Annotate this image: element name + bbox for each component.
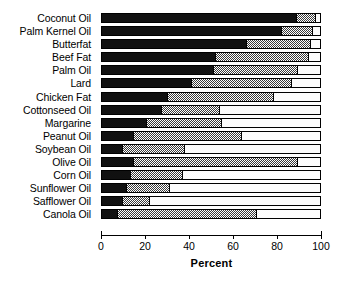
category-label: Chicken Fat bbox=[0, 91, 96, 104]
category-label: Margarine bbox=[0, 117, 96, 130]
bar-segment-monounsaturated bbox=[167, 93, 274, 101]
category-label: Corn Oil bbox=[0, 169, 96, 182]
bar-segment-polyunsaturated bbox=[170, 184, 320, 192]
bar-segment-saturated bbox=[102, 197, 122, 205]
stacked-bar bbox=[101, 52, 321, 62]
bar-row bbox=[101, 156, 321, 169]
bar-segment-saturated bbox=[102, 106, 161, 114]
stacked-bar bbox=[101, 209, 321, 219]
x-tick bbox=[277, 235, 278, 239]
stacked-bar bbox=[101, 144, 321, 154]
bar-segment-polyunsaturated bbox=[220, 106, 320, 114]
category-label: Palm Kernel Oil bbox=[0, 25, 96, 38]
bar-segment-saturated bbox=[102, 66, 213, 74]
bar-segment-monounsaturated bbox=[130, 171, 182, 179]
bar-segment-monounsaturated bbox=[213, 66, 298, 74]
stacked-bar bbox=[101, 78, 321, 88]
bar-segment-polyunsaturated bbox=[185, 145, 320, 153]
bar-segment-monounsaturated bbox=[122, 145, 185, 153]
x-tick bbox=[101, 235, 102, 239]
category-label: Coconut Oil bbox=[0, 12, 96, 25]
bar-segment-saturated bbox=[102, 158, 133, 166]
bar-row bbox=[101, 51, 321, 64]
bar-segment-monounsaturated bbox=[215, 53, 309, 61]
bar-row bbox=[101, 169, 321, 182]
stacked-bar bbox=[101, 92, 321, 102]
x-tick bbox=[233, 235, 234, 239]
stacked-bar bbox=[101, 183, 321, 193]
x-tick bbox=[145, 235, 146, 239]
bar-segment-polyunsaturated bbox=[311, 40, 320, 48]
bar-segment-saturated bbox=[102, 79, 191, 87]
bar-row bbox=[101, 38, 321, 51]
plot-area bbox=[101, 12, 321, 235]
bar-segment-saturated bbox=[102, 145, 122, 153]
bar-segment-polyunsaturated bbox=[257, 210, 320, 218]
bar-row bbox=[101, 12, 321, 25]
bar-segment-polyunsaturated bbox=[309, 53, 320, 61]
bar-segment-saturated bbox=[102, 210, 117, 218]
bar-segment-saturated bbox=[102, 184, 126, 192]
bar-row bbox=[101, 143, 321, 156]
stacked-bar bbox=[101, 157, 321, 167]
bar-segment-monounsaturated bbox=[117, 210, 257, 218]
bar-segment-monounsaturated bbox=[281, 27, 314, 35]
bar-stack-container bbox=[101, 12, 321, 235]
bar-segment-polyunsaturated bbox=[292, 79, 320, 87]
x-tick-label: 20 bbox=[130, 240, 160, 252]
bar-segment-polyunsaturated bbox=[150, 197, 320, 205]
bar-row bbox=[101, 130, 321, 143]
stacked-bar bbox=[101, 131, 321, 141]
x-tick-label: 80 bbox=[262, 240, 292, 252]
stacked-bar bbox=[101, 118, 321, 128]
bar-segment-monounsaturated bbox=[133, 132, 242, 140]
bar-row bbox=[101, 91, 321, 104]
bar-segment-saturated bbox=[102, 27, 281, 35]
bar-segment-saturated bbox=[102, 119, 146, 127]
stacked-bar bbox=[101, 105, 321, 115]
bar-row bbox=[101, 77, 321, 90]
category-label: Cottonseed Oil bbox=[0, 104, 96, 117]
bar-segment-saturated bbox=[102, 132, 133, 140]
bar-segment-monounsaturated bbox=[246, 40, 311, 48]
bar-segment-monounsaturated bbox=[191, 79, 291, 87]
bar-segment-saturated bbox=[102, 14, 296, 22]
bar-row bbox=[101, 117, 321, 130]
bar-segment-polyunsaturated bbox=[222, 119, 320, 127]
bar-row bbox=[101, 195, 321, 208]
bar-row bbox=[101, 208, 321, 221]
x-tick bbox=[189, 235, 190, 239]
category-label: Olive Oil bbox=[0, 156, 96, 169]
x-axis-title: Percent bbox=[101, 257, 322, 269]
bar-segment-polyunsaturated bbox=[313, 27, 320, 35]
bar-row bbox=[101, 25, 321, 38]
bar-segment-saturated bbox=[102, 93, 167, 101]
x-tick-label: 100 bbox=[306, 240, 336, 252]
bar-segment-monounsaturated bbox=[296, 14, 316, 22]
category-label: Beef Fat bbox=[0, 51, 96, 64]
category-label: Sunflower Oil bbox=[0, 182, 96, 195]
stacked-bar bbox=[101, 26, 321, 36]
bar-row bbox=[101, 104, 321, 117]
bar-segment-saturated bbox=[102, 40, 246, 48]
bar-segment-monounsaturated bbox=[133, 158, 299, 166]
bar-row bbox=[101, 182, 321, 195]
category-label: Soybean Oil bbox=[0, 143, 96, 156]
bar-segment-polyunsaturated bbox=[242, 132, 320, 140]
bar-segment-monounsaturated bbox=[122, 197, 150, 205]
fat-composition-chart: Coconut OilPalm Kernel OilButterfatBeef … bbox=[0, 0, 342, 282]
bar-segment-polyunsaturated bbox=[274, 93, 320, 101]
stacked-bar bbox=[101, 39, 321, 49]
x-tick-label: 40 bbox=[174, 240, 204, 252]
stacked-bar bbox=[101, 65, 321, 75]
x-tick-label: 60 bbox=[218, 240, 248, 252]
category-label-column: Coconut OilPalm Kernel OilButterfatBeef … bbox=[0, 12, 96, 222]
category-label: Peanut Oil bbox=[0, 130, 96, 143]
category-label: Lard bbox=[0, 77, 96, 90]
stacked-bar bbox=[101, 196, 321, 206]
x-axis-line bbox=[101, 235, 322, 236]
category-label: Safflower Oil bbox=[0, 195, 96, 208]
bar-segment-polyunsaturated bbox=[183, 171, 320, 179]
stacked-bar bbox=[101, 170, 321, 180]
bar-segment-monounsaturated bbox=[146, 119, 222, 127]
